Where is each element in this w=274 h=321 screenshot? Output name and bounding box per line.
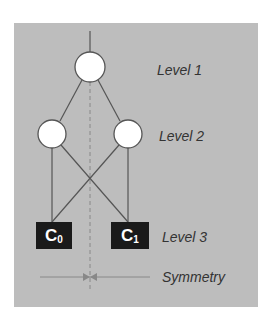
edge bbox=[98, 80, 120, 121]
level-3-label: Level 3 bbox=[162, 229, 207, 245]
edge bbox=[61, 145, 128, 222]
node-level-2-right bbox=[114, 120, 142, 148]
leaf-c1: C1 bbox=[111, 222, 149, 249]
leaf-c0-base: C bbox=[45, 226, 57, 246]
leaf-c0: C0 bbox=[36, 222, 72, 249]
bowtie-right-icon bbox=[90, 273, 97, 281]
node-level-1 bbox=[75, 52, 105, 82]
edge bbox=[60, 80, 82, 121]
node-level-2-left bbox=[38, 120, 66, 148]
leaf-c1-sub: 1 bbox=[133, 234, 139, 245]
leaf-c1-base: C bbox=[121, 226, 133, 246]
leaf-c0-sub: 0 bbox=[57, 234, 63, 245]
level-2-label: Level 2 bbox=[159, 128, 204, 144]
level-1-label: Level 1 bbox=[157, 62, 202, 78]
bowtie-left-icon bbox=[83, 273, 90, 281]
tree-graphic bbox=[0, 0, 274, 321]
symmetry-label: Symmetry bbox=[162, 269, 225, 285]
edge bbox=[52, 145, 119, 222]
